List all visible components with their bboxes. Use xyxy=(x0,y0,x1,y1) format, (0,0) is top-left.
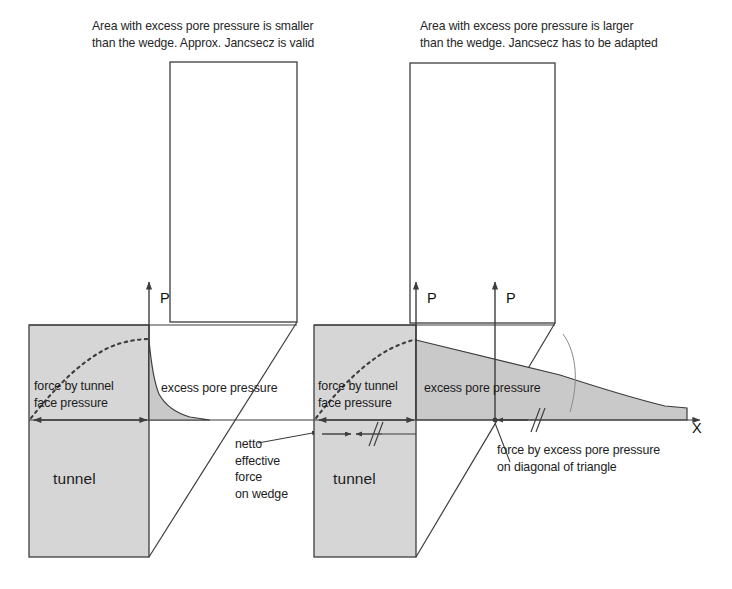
netto-effective-force-label: netto effective force on wedge xyxy=(235,436,288,502)
diagram-canvas xyxy=(0,0,732,589)
left-excess-pore-pressure-label: excess pore pressure xyxy=(161,380,277,397)
right-x-axis-label: X xyxy=(692,420,702,436)
right-panel-caption: Area with excess pore pressure is larger… xyxy=(420,18,720,51)
right-excess-pore-pressure-label: excess pore pressure xyxy=(424,380,540,397)
right-face-pressure-label: force by tunnel face pressure xyxy=(318,378,398,411)
right-diagonal-force-origin xyxy=(493,418,498,423)
right-shaft-rect xyxy=(410,63,555,323)
left-face-pressure-label: force by tunnel face pressure xyxy=(34,378,114,411)
left-panel-caption: Area with excess pore pressure is smalle… xyxy=(92,18,392,51)
right-p-axis-label-1: P xyxy=(427,290,437,306)
left-tunnel-label: tunnel xyxy=(53,470,96,488)
right-tunnel-block xyxy=(314,325,416,557)
left-p-axis-label: P xyxy=(160,290,170,306)
left-shaft-rect xyxy=(170,62,297,322)
right-tunnel-label: tunnel xyxy=(333,470,376,488)
right-p-axis-label-2: P xyxy=(506,290,516,306)
diagonal-force-label: force by excess pore pressure on diagona… xyxy=(497,442,660,475)
